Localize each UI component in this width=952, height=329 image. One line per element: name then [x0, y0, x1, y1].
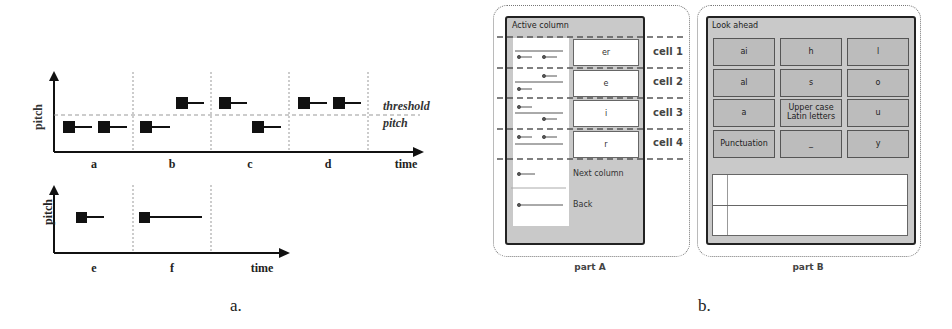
lookahead-uppercase[interactable]: Upper case Latin letters [780, 99, 842, 127]
part-b-label: part B [778, 262, 838, 272]
part-a-label: part A [560, 262, 620, 272]
lookahead-space[interactable]: _ [780, 130, 842, 158]
lookahead-ai[interactable]: ai [713, 38, 775, 66]
lookahead-h[interactable]: h [780, 38, 842, 66]
text-row-divider [713, 205, 907, 206]
lookahead-al[interactable]: al [713, 69, 775, 97]
cell-1-label: cell 1 [653, 46, 683, 57]
cell-3-label: cell 3 [653, 107, 683, 118]
cell-3-button[interactable]: i [573, 100, 639, 127]
lookahead-y[interactable]: y [847, 130, 909, 158]
lookahead-a[interactable]: a [713, 99, 775, 127]
lookahead-l[interactable]: l [847, 38, 909, 66]
lookahead-punctuation[interactable]: Punctuation [713, 130, 775, 158]
cell-4-button[interactable]: r [573, 131, 639, 158]
cell-2-label: cell 2 [653, 76, 683, 87]
cell-1-button[interactable]: er [573, 39, 639, 66]
lookahead-u[interactable]: u [847, 99, 909, 127]
text-output-area[interactable] [712, 174, 908, 236]
lookahead-o[interactable]: o [847, 69, 909, 97]
caption-b: b. [698, 296, 711, 316]
cell-2-button[interactable]: e [573, 70, 639, 97]
lookahead-s[interactable]: s [780, 69, 842, 97]
next-column-button[interactable]: Next column [573, 169, 624, 178]
look-ahead-title: Look ahead [712, 21, 758, 30]
cell-4-label: cell 4 [653, 137, 683, 148]
back-button[interactable]: Back [573, 200, 592, 209]
